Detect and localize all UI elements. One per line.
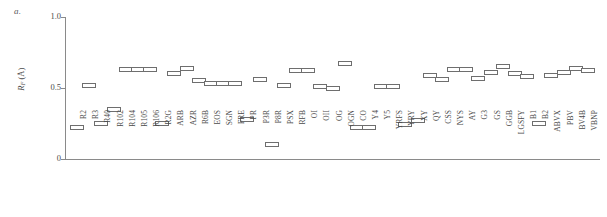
x-axis-tick-label: OII [323, 110, 331, 162]
panel-label: a. [14, 6, 21, 16]
data-marker [557, 70, 571, 75]
data-marker [301, 68, 315, 73]
x-axis-tick-label: QY [433, 110, 441, 162]
x-axis-tick-label: ARB [177, 110, 185, 162]
data-marker [496, 64, 510, 69]
x-axis-tick-labels: R2R3R40R102R104R105R106R2GARBAZRR6BEOSSG… [65, 160, 600, 217]
figure-panel-a: a. RF (Å) 1.00.50 R2R3R40R102R104R105R10… [0, 0, 607, 217]
x-axis-tick-label: AY [469, 110, 477, 162]
x-axis-tick-label: RFB [299, 110, 307, 162]
x-axis-tick-label: LGSFY [518, 110, 526, 162]
x-axis-tick-label: AZR [190, 110, 198, 162]
x-axis-tick-label: GGB [506, 110, 514, 162]
x-axis-tick-label: VBNP [591, 110, 599, 162]
x-axis-tick-label: PSX [287, 110, 295, 162]
x-axis-tick-label: R102 [117, 110, 125, 162]
x-axis-tick-label: CSS [445, 110, 453, 162]
x-axis-tick-label: R3 [92, 110, 100, 162]
data-marker [253, 77, 267, 82]
y-axis-title-unit: (Å) [16, 68, 26, 82]
data-marker [471, 76, 485, 81]
x-axis-tick-label: B1 [530, 110, 538, 162]
data-marker [520, 74, 534, 79]
x-axis-tick-label: R2G [165, 110, 173, 162]
x-axis-tick-label: OG [336, 110, 344, 162]
data-marker [581, 68, 595, 73]
data-marker [143, 67, 157, 72]
data-marker [459, 67, 473, 72]
x-axis-tick-label: R104 [129, 110, 137, 162]
data-marker [228, 81, 242, 86]
x-axis-tick-label: R40 [104, 110, 112, 162]
y-axis-tick-label-text: 1.0 [27, 12, 61, 21]
y-axis-tick-label-text: 0.5 [27, 83, 61, 92]
data-marker [326, 86, 340, 91]
y-axis-title: RF (Å) [16, 49, 27, 109]
x-axis-tick-label: YRFS [396, 110, 404, 162]
x-axis-tick-label: BV4B [579, 110, 587, 162]
x-axis-tick-label: OI [311, 110, 319, 162]
data-marker [435, 77, 449, 82]
x-axis-tick-label: SGN [226, 110, 234, 162]
x-axis-tick-label: Y4 [372, 110, 380, 162]
x-axis-tick-label: YRY [408, 110, 416, 162]
data-marker [277, 83, 291, 88]
x-axis-tick-label: ABVX [554, 110, 562, 162]
x-axis-tick-label: NYS [457, 110, 465, 162]
x-axis-tick-label: Y5 [384, 110, 392, 162]
x-axis-tick-label: B2 [542, 110, 550, 162]
data-marker [484, 70, 498, 75]
data-marker [82, 83, 96, 88]
x-axis-tick-label: XY [421, 110, 429, 162]
data-marker [338, 61, 352, 66]
data-marker [167, 71, 181, 76]
x-axis-tick-label: GS [494, 110, 502, 162]
x-axis-tick-label: PBV [567, 110, 575, 162]
x-axis-tick-label: CO [360, 110, 368, 162]
y-axis-tick-label: 1.0 [22, 12, 61, 13]
data-marker [180, 66, 194, 71]
x-axis-tick-label: R2 [80, 110, 88, 162]
x-axis-tick-label: G3 [481, 110, 489, 162]
x-axis-tick-label: R105 [141, 110, 149, 162]
x-axis-tick-label: EOS [214, 110, 222, 162]
x-axis-tick-label: FRE [238, 110, 246, 162]
y-axis-title-main: R [16, 86, 26, 91]
x-axis-tick-label: OGN [348, 110, 356, 162]
x-axis-tick-label: P8R [275, 110, 283, 162]
x-axis-tick-label: PR [250, 110, 258, 162]
x-axis-tick-label: R6B [202, 110, 210, 162]
x-axis-tick-label: P3R [263, 110, 271, 162]
x-axis-tick-label: R106 [153, 110, 161, 162]
data-marker [386, 84, 400, 89]
y-axis-tick-label: 0 [22, 154, 61, 155]
y-axis-tick-label-text: 0 [27, 154, 61, 163]
y-axis-tick-label: 0.5 [22, 83, 61, 84]
